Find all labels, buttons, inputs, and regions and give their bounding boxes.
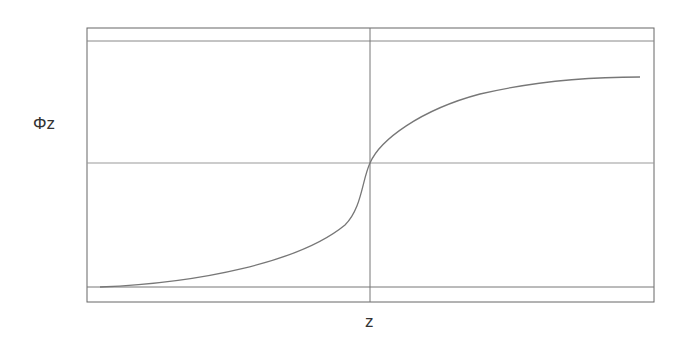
- chart-plot: [0, 0, 686, 360]
